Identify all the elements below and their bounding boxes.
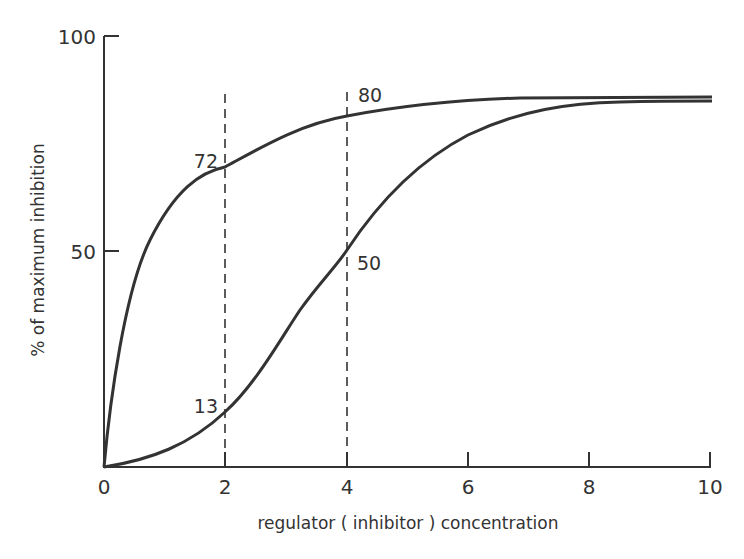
annotation-80: 80 xyxy=(358,84,382,106)
x-tick-label-10: 10 xyxy=(697,475,722,499)
x-tick-label-2: 2 xyxy=(219,475,232,499)
x-axis-title: regulator ( inhibitor ) concentration xyxy=(257,513,558,533)
x-tick-label-0: 0 xyxy=(98,475,111,499)
annotation-13: 13 xyxy=(194,395,218,417)
x-axis xyxy=(104,452,711,467)
y-tick-label-50: 50 xyxy=(71,240,96,264)
x-tick-label-8: 8 xyxy=(583,475,596,499)
inhibition-chart: 100 50 0 2 4 6 8 10 72 80 13 50 regulato… xyxy=(0,0,744,559)
annotation-50: 50 xyxy=(357,252,381,274)
x-tick-label-4: 4 xyxy=(341,475,354,499)
x-tick-label-6: 6 xyxy=(462,475,475,499)
annotation-72: 72 xyxy=(194,150,218,172)
y-axis-title: % of maximum inhibition xyxy=(28,143,48,356)
y-tick-label-100: 100 xyxy=(58,25,96,49)
